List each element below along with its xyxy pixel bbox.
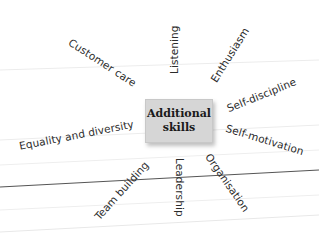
faint-rule-line [0,215,319,232]
faint-rule-line [0,195,319,210]
dark-rule-line [0,170,319,187]
diagram-canvas: Additional skills Customer care Listenin… [0,0,319,233]
center-label-line1: Additional [147,107,211,121]
faint-rule-line [0,60,319,70]
faint-rule-line [0,150,319,165]
center-label-line2: skills [163,121,196,135]
branch-leadership: Leadership [174,158,186,217]
branch-listening: Listening [168,25,180,74]
center-node-additional-skills: Additional skills [145,99,213,143]
